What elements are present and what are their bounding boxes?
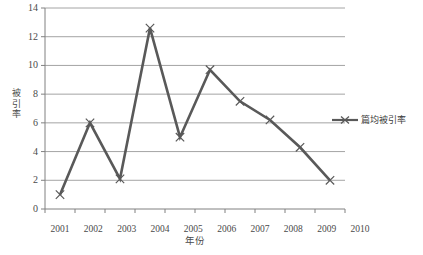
x-axis-ticks [45, 209, 345, 213]
series-markers [56, 24, 334, 199]
data-point-2009 [296, 143, 304, 151]
legend-swatch-icon [332, 114, 358, 126]
plot-area [0, 0, 423, 255]
legend: 篇均被引率 [332, 113, 406, 126]
line-chart: 被 引 率 14 12 10 8 6 4 2 0 2001 2002 2003 … [0, 0, 423, 255]
series-line-篇均被引率 [60, 28, 330, 195]
data-point-2007 [236, 97, 244, 105]
legend-label: 篇均被引率 [361, 113, 406, 126]
